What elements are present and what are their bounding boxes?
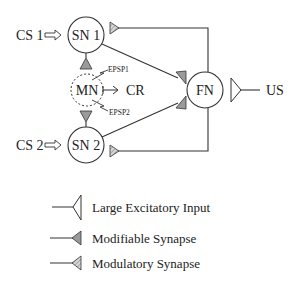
legend: Large Excitatory Input Modifiable Synaps… [50, 195, 211, 271]
mn-label: MN [76, 83, 99, 98]
epsp2-zigzag-icon [92, 100, 108, 111]
node-sn2: SN 2 [68, 127, 104, 163]
legend-label: Modifiable Synapse [92, 231, 197, 246]
legend-item-modifiable: Modifiable Synapse [50, 231, 197, 246]
neural-circuit-diagram: SN 1 SN 2 MN FN EPSP1 EPSP2 [0, 0, 297, 289]
sn2-label: SN 2 [72, 138, 100, 153]
legend-label: Modulatory Synapse [92, 256, 200, 271]
fn-sn1-modulatory-synapse-icon [110, 22, 119, 34]
epsp2-label: EPSP2 [109, 108, 130, 117]
sn1-label: SN 1 [72, 28, 100, 43]
legend-item-modulatory: Modulatory Synapse [50, 256, 200, 271]
hatched-triangle-icon [72, 256, 81, 270]
cs2-arrow-icon [45, 140, 61, 150]
node-fn: FN [187, 72, 223, 108]
mn-to-cr-arrow-icon [103, 86, 118, 94]
epsp1-label: EPSP1 [108, 65, 129, 74]
filled-triangle-icon [72, 231, 81, 245]
us-excitatory-input-icon [231, 78, 241, 102]
us-label: US [266, 83, 284, 98]
epsp1-zigzag-icon [92, 70, 108, 80]
cs1-label: CS 1 [16, 28, 44, 43]
legend-label: Large Excitatory Input [92, 200, 211, 215]
fn-sn2-modulatory-synapse-icon [110, 145, 119, 157]
fn-to-sn1-wire [118, 28, 208, 72]
sn1-mn-synapse-icon [80, 58, 92, 69]
legend-item-large-excitatory: Large Excitatory Input [52, 195, 211, 220]
node-sn1: SN 1 [68, 17, 104, 53]
cs1-arrow-icon [45, 30, 61, 40]
node-mn: MN [71, 74, 103, 106]
sn2-fn-synapse-icon [176, 96, 186, 109]
cr-label: CR [126, 83, 145, 98]
open-triangle-icon [73, 195, 81, 220]
fn-label: FN [196, 83, 214, 98]
cs2-label: CS 2 [16, 138, 44, 153]
sn2-mn-synapse-icon [80, 111, 92, 122]
fn-to-sn2-wire [118, 108, 208, 151]
